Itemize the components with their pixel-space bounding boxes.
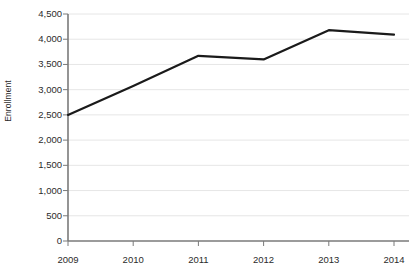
gridlines xyxy=(68,14,409,216)
enrollment-line-chart: Enrollment 4,5004,0003,5003,0002,5002,00… xyxy=(0,0,409,276)
enrollment-series-line xyxy=(68,30,394,115)
plot-area xyxy=(0,0,409,276)
